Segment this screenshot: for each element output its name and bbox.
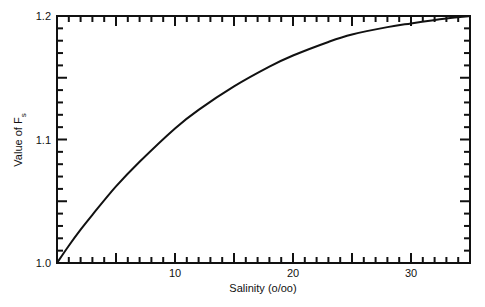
plot-frame <box>57 16 470 263</box>
y-tick-labels: 1.01.11.2 <box>36 10 51 269</box>
y-tick-label: 1.0 <box>36 257 51 269</box>
x-axis-title: Salinity (o/oo) <box>229 282 296 294</box>
axis-ticks <box>57 16 470 263</box>
y-axis-title: Value of Fs <box>12 113 28 166</box>
y-tick-label: 1.2 <box>36 10 51 22</box>
x-tick-label: 20 <box>287 267 299 279</box>
x-tick-label: 30 <box>405 267 417 279</box>
x-tick-label: 10 <box>169 267 181 279</box>
chart: 102030 1.01.11.2 Salinity (o/oo) Value o… <box>0 0 485 307</box>
y-tick-label: 1.1 <box>36 134 51 146</box>
y-axis-title-main: Value of F <box>12 117 24 167</box>
x-tick-labels: 102030 <box>169 267 417 279</box>
fs-curve <box>57 16 470 263</box>
y-axis-title-subscript: s <box>19 113 28 117</box>
